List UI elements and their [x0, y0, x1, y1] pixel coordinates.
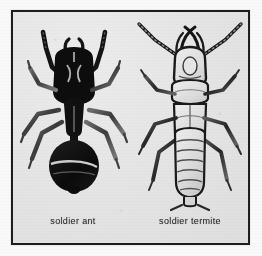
soldier-ant-illustration	[15, 18, 133, 214]
figure-root: soldier ant soldier termite	[0, 0, 262, 256]
figure-frame: soldier ant soldier termite	[11, 10, 250, 245]
soldier-termite-illustration	[131, 14, 248, 216]
caption-soldier-termite: soldier termite	[129, 216, 248, 226]
ant-thorax	[64, 98, 84, 137]
ant-gaster	[49, 140, 99, 194]
illustration-plate: soldier ant soldier termite	[13, 12, 248, 243]
termite-abdomen	[175, 128, 205, 206]
termite-pronotum	[172, 80, 208, 104]
ant-head	[53, 47, 95, 105]
caption-soldier-ant: soldier ant	[13, 216, 133, 226]
